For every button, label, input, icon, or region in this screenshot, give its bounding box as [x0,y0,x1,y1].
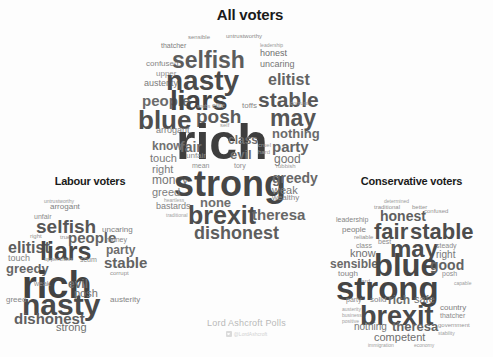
cloud-word: immigration [368,343,394,347]
source-credit-handle-row: @LordAshcroft [0,331,493,337]
cloud-word: toffs [242,103,257,110]
panel-labour-voters-title: Labour voters [6,175,174,187]
source-credit-text: Lord Ashcroft Polls [0,318,493,328]
cloud-word: honest [260,50,287,58]
cloud-word: know [152,141,183,151]
cloud-word: corrupt [110,271,129,276]
cloud-word: sensible [188,35,210,40]
cloud-word: wealthy [272,195,299,202]
cloud-word: austerity [110,297,140,304]
cloud-word: scum [80,257,97,263]
wordcloud-all-voters: sensibleuntrustworthythatcherleadershiph… [150,23,350,213]
cloud-word: business [342,313,362,317]
cloud-word: people [342,227,366,234]
cloud-word: uncaring [260,61,295,69]
wordcloud-conservative-voters: determinedtraditionalbetterhonestconfuse… [330,187,493,337]
source-credit: Lord Ashcroft Polls @LordAshcroft [0,318,493,337]
cloud-word: greedy [272,172,318,184]
cloud-word: elitist [268,73,310,87]
cloud-word: class [228,135,258,145]
wordcloud-canvas: All voters sensibleuntrustworthythatcher… [0,0,493,357]
cloud-word: hard [258,150,270,155]
cloud-word: country [440,305,466,312]
cloud-word: untrustworthy [226,34,262,39]
cloud-word: sensible [330,259,378,269]
cloud-word: determined [384,199,409,203]
cloud-word: austerity [342,307,361,311]
source-credit-handle: @LordAshcroft [234,331,267,337]
cloud-word: confused [424,209,448,214]
wordcloud-labour-voters: untrustworthyarrogantunfairselfishuncari… [6,187,174,332]
cloud-word: theresa [252,209,305,222]
cloud-word: weak [34,281,50,287]
cloud-word: leadership [260,43,283,47]
cloud-word: capable [454,281,472,285]
cloud-word: evil [230,149,252,160]
cloud-word: posh [442,271,457,277]
cloud-word: dishonest [194,226,279,241]
cloud-word: cruel [258,143,271,148]
panel-all-voters: All voters sensibleuntrustworthythatcher… [150,6,350,221]
cloud-word: stable [104,257,147,270]
cloud-word: reliable [354,235,373,240]
twitter-icon [226,331,232,337]
cloud-word: unfair [186,153,206,160]
panel-conservative-voters-title: Conservative voters [330,175,493,187]
cloud-word: arrogant [50,204,80,211]
panel-all-voters-title: All voters [150,6,350,23]
cloud-word: greed [6,297,26,304]
cloud-word: leadership [336,217,368,223]
cloud-word: economy [414,343,434,347]
